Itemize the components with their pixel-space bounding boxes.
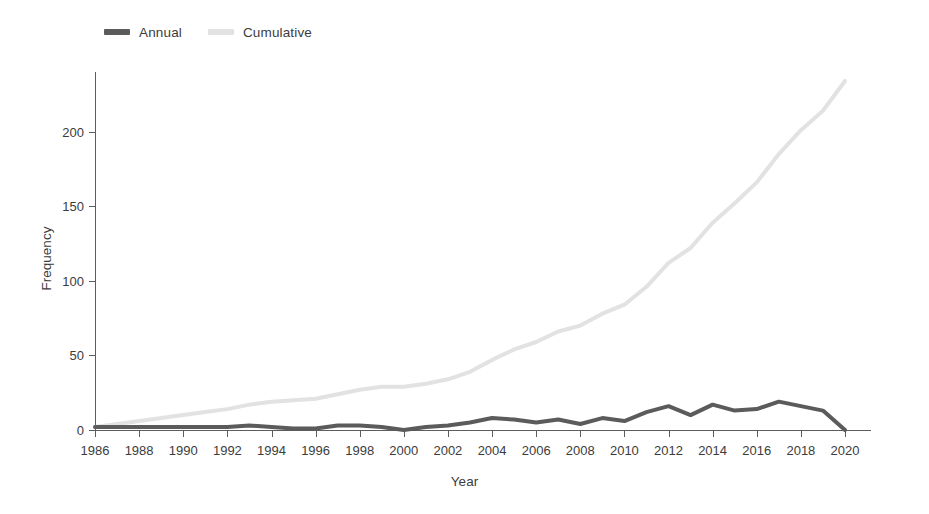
y-axis-tick-label: 50 (40, 348, 84, 363)
x-axis-tick (624, 431, 625, 437)
x-axis-tick (272, 431, 273, 437)
series-paths (95, 81, 845, 430)
x-axis-tick-label: 2010 (601, 443, 647, 458)
y-axis-tick (89, 281, 95, 282)
x-axis-tick (360, 431, 361, 437)
x-axis-tick-label: 1990 (160, 443, 206, 458)
x-axis-tick-label: 1992 (204, 443, 250, 458)
x-axis-tick (183, 431, 184, 437)
line-swatch-icon (208, 29, 234, 35)
y-axis-tick (89, 132, 95, 133)
y-axis-tick-label: 0 (40, 423, 84, 438)
chart-figure: Annual Cumulative 050100150200 Frequency… (0, 0, 929, 514)
legend-entry-cumulative[interactable]: Cumulative (208, 25, 312, 40)
line-swatch-icon (104, 29, 130, 35)
y-axis-title: Frequency (39, 199, 54, 319)
x-axis-tick (580, 431, 581, 437)
x-axis-title: Year (0, 474, 929, 489)
series-line-annual (95, 402, 845, 430)
x-axis-tick-label: 1988 (116, 443, 162, 458)
x-axis-tick-label: 2000 (381, 443, 427, 458)
x-axis-tick (536, 431, 537, 437)
x-axis-tick (139, 431, 140, 437)
x-axis-tick (492, 431, 493, 437)
y-axis-tick (89, 355, 95, 356)
x-axis-tick-label: 1986 (72, 443, 118, 458)
x-axis-tick-label: 2008 (557, 443, 603, 458)
chart-legend: Annual Cumulative (104, 21, 338, 43)
x-axis-tick (404, 431, 405, 437)
series-line-cumulative (95, 81, 845, 427)
x-axis-tick-label: 2018 (778, 443, 824, 458)
legend-label-cumulative: Cumulative (243, 25, 312, 40)
x-axis-spine (95, 430, 871, 431)
y-axis-spine (95, 72, 96, 431)
x-axis-tick-label: 1996 (293, 443, 339, 458)
y-axis-tick (89, 206, 95, 207)
x-axis-tick-label: 2020 (822, 443, 868, 458)
x-axis-tick-label: 2012 (646, 443, 692, 458)
x-axis-tick-label: 2002 (425, 443, 471, 458)
x-axis-tick (669, 431, 670, 437)
x-axis-tick (801, 431, 802, 437)
x-axis-tick (757, 431, 758, 437)
x-axis-tick-label: 2014 (690, 443, 736, 458)
x-axis-tick-label: 2004 (469, 443, 515, 458)
x-axis-tick (845, 431, 846, 437)
legend-entry-annual[interactable]: Annual (104, 25, 182, 40)
x-axis-tick-label: 1994 (249, 443, 295, 458)
x-axis-tick (713, 431, 714, 437)
x-axis-tick (95, 431, 96, 437)
y-axis-tick-label: 200 (40, 124, 84, 139)
x-axis-tick (448, 431, 449, 437)
x-axis-tick (227, 431, 228, 437)
x-axis-tick-label: 2006 (513, 443, 559, 458)
x-axis-tick-label: 1998 (337, 443, 383, 458)
x-axis-tick (316, 431, 317, 437)
x-axis-tick-label: 2016 (734, 443, 780, 458)
legend-label-annual: Annual (139, 25, 182, 40)
